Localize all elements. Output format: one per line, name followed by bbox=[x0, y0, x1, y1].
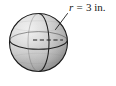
radius-value: 3 bbox=[86, 1, 92, 13]
equals-sign: = bbox=[76, 1, 83, 13]
radius-label: r = 3 in. bbox=[69, 2, 106, 13]
radius-unit: in. bbox=[94, 1, 105, 13]
sphere-figure: r = 3 in. bbox=[0, 0, 116, 86]
radius-variable: r bbox=[69, 1, 73, 13]
sphere-body bbox=[10, 14, 68, 72]
